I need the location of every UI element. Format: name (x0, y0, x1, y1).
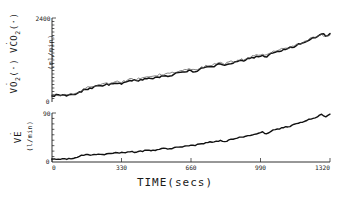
x-tick-label: 990 (255, 164, 266, 171)
figure-container: V̇O2(·) V̇CO2(·) (ml/min) V̇E (l/min) TI… (0, 0, 350, 198)
trace-vo2 (52, 34, 330, 97)
y-tick-label: 90 (43, 110, 51, 117)
y-tick-label: 0 (46, 98, 50, 105)
y-tick-label: 0 (46, 158, 50, 165)
traces-layer (52, 34, 330, 160)
axes-layer (52, 18, 330, 162)
tick-labels-layer: 0240009003306609901320 (36, 15, 331, 171)
trace-vco2 (52, 34, 330, 96)
x-tick-label: 0 (52, 164, 56, 171)
x-tick-label: 330 (116, 164, 127, 171)
x-tick-label: 1320 (315, 164, 330, 171)
y-tick-label: 2400 (36, 15, 51, 22)
trace-ve (52, 114, 330, 159)
x-tick-label: 660 (185, 164, 196, 171)
plot-svg: 0240009003306609901320 (0, 0, 350, 198)
